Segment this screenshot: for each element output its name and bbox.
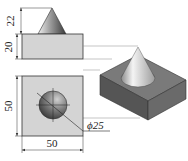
- dim-depth: 50: [2, 100, 14, 112]
- top-view: ϕ25 50 50: [2, 76, 110, 153]
- front-view: 22 20: [2, 8, 83, 59]
- dim-cone-diameter: ϕ25: [87, 119, 104, 131]
- dim-block-height: 20: [2, 41, 14, 53]
- front-block: [22, 34, 83, 59]
- drawing-canvas: 22 20 ϕ25 50 50: [0, 0, 188, 161]
- dim-width: 50: [47, 137, 59, 149]
- front-cone: [38, 8, 66, 34]
- dim-cone-height: 22: [4, 16, 16, 27]
- isometric-view: [100, 47, 186, 120]
